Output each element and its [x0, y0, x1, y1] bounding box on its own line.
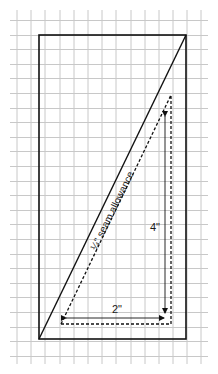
diagonal-cut-line [39, 35, 186, 339]
width-label: 2" [112, 303, 122, 315]
height-label: 4" [150, 221, 160, 233]
diagram-canvas [0, 0, 218, 374]
